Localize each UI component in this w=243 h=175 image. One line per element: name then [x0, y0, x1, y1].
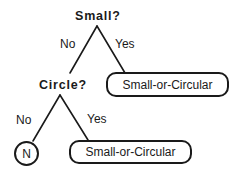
root-no-label: No [60, 37, 75, 51]
root-yes-leaf: Small-or-Circular [106, 72, 229, 97]
edge-circle-no [33, 95, 60, 141]
child-no-leaf: N [14, 141, 39, 166]
child-no-label: No [16, 113, 31, 127]
child-yes-leaf: Small-or-Circular [69, 140, 192, 164]
edge-circle-yes [60, 95, 88, 140]
root-yes-label: Yes [115, 37, 135, 51]
root-question: Small? [75, 9, 121, 23]
child-yes-label: Yes [87, 112, 107, 126]
child-question: Circle? [39, 78, 87, 92]
